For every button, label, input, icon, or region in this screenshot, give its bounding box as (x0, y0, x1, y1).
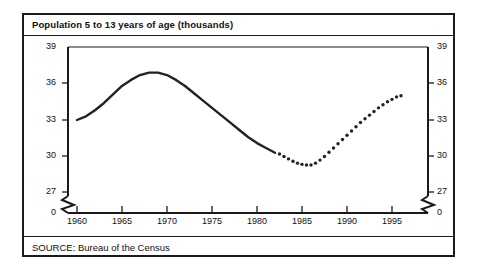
data-point (318, 158, 321, 161)
x-tick-label-1990: 1990 (330, 216, 364, 226)
data-point (399, 94, 402, 97)
data-point (350, 129, 353, 132)
data-point (372, 110, 375, 113)
data-point (345, 133, 348, 136)
x-tick-label-1995: 1995 (375, 216, 409, 226)
data-series-actual (77, 73, 275, 153)
data-point (386, 100, 389, 103)
data-point (332, 146, 335, 149)
y-tick-label-left-27: 27 (38, 186, 56, 196)
data-point (341, 138, 344, 141)
x-tick-label-1970: 1970 (150, 216, 184, 226)
data-point (381, 103, 384, 106)
plot-area (0, 0, 478, 276)
data-point (282, 155, 285, 158)
data-point (377, 106, 380, 109)
y-tick-label-left-33: 33 (38, 114, 56, 124)
y-tick-label-left-36: 36 (38, 77, 56, 87)
data-point (323, 155, 326, 158)
data-point (354, 125, 357, 128)
x-tick-label-1965: 1965 (105, 216, 139, 226)
data-point (368, 113, 371, 116)
x-tick-label-1960: 1960 (60, 216, 94, 226)
left-axis-break-icon (62, 196, 74, 213)
y-tick-label-right-27: 27 (437, 186, 455, 196)
data-series-projected (278, 94, 403, 167)
data-point (359, 121, 362, 124)
data-point (287, 157, 290, 160)
x-ticks (77, 206, 392, 213)
data-point (296, 161, 299, 164)
data-point (314, 161, 317, 164)
y-tick-label-right-33: 33 (437, 114, 455, 124)
y-tick-label-left-0: 0 (38, 207, 56, 217)
data-point (291, 160, 294, 163)
data-point (278, 152, 281, 155)
data-point (395, 95, 398, 98)
x-tick-label-1980: 1980 (240, 216, 274, 226)
source-note: SOURCE: Bureau of the Census (32, 242, 170, 253)
data-point (363, 117, 366, 120)
data-point (305, 163, 308, 166)
y-tick-label-right-30: 30 (437, 150, 455, 160)
right-axis-break-icon (422, 196, 434, 213)
data-point (300, 163, 303, 166)
data-point (327, 151, 330, 154)
x-tick-label-1975: 1975 (195, 216, 229, 226)
data-point (390, 98, 393, 101)
y-tick-label-right-36: 36 (437, 77, 455, 87)
y-tick-label-left-30: 30 (38, 150, 56, 160)
y-tick-label-right-0: 0 (437, 207, 455, 217)
x-tick-label-1985: 1985 (285, 216, 319, 226)
y-tick-label-right-39: 39 (437, 41, 455, 51)
data-point (336, 142, 339, 145)
data-point (309, 163, 312, 166)
y-tick-label-left-39: 39 (38, 41, 56, 51)
chart-figure: Population 5 to 13 years of age (thousan… (0, 0, 478, 276)
